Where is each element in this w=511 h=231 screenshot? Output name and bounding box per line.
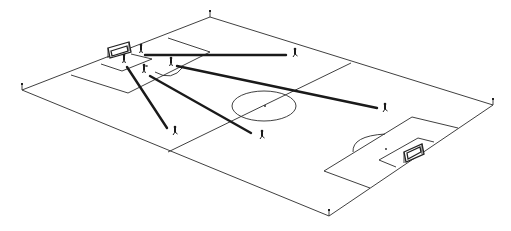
player-figure[interactable] <box>143 64 148 73</box>
center-spot <box>264 105 266 107</box>
corner-flag-bottom <box>328 209 330 216</box>
player-figure[interactable] <box>170 57 173 66</box>
center-circle <box>232 91 296 121</box>
corner-flag-left <box>21 83 23 90</box>
pitch-diagram <box>0 0 511 231</box>
left-goal <box>108 42 131 58</box>
corner-flag-top <box>209 10 211 17</box>
player-figure[interactable] <box>260 130 265 139</box>
player-figure[interactable] <box>173 126 178 135</box>
right-penalty-area <box>324 117 458 188</box>
corner-flag-right <box>492 98 494 105</box>
pitch-outline <box>22 17 493 216</box>
right-goal <box>404 144 424 163</box>
left-penalty-arc <box>155 67 183 76</box>
pass-line <box>177 66 377 108</box>
player-figure[interactable] <box>140 44 143 53</box>
player-figure[interactable] <box>383 103 388 112</box>
player-figure[interactable] <box>123 54 126 63</box>
pitch-svg <box>0 0 511 231</box>
right-penalty-spot <box>385 148 387 150</box>
player-figure[interactable] <box>293 48 298 57</box>
halfway-line <box>168 63 351 152</box>
